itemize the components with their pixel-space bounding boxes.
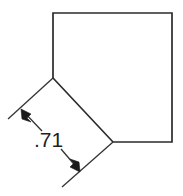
technical-drawing-canvas: .71: [0, 0, 183, 196]
dimension-value-label: .71: [34, 128, 63, 151]
lower-extension-line: [62, 142, 113, 187]
part-outline-chamfered-square: [53, 13, 172, 142]
drawing-svg: .71: [0, 0, 183, 196]
upper-extension-line: [8, 78, 53, 119]
upper-arrowhead-icon: [21, 109, 31, 122]
